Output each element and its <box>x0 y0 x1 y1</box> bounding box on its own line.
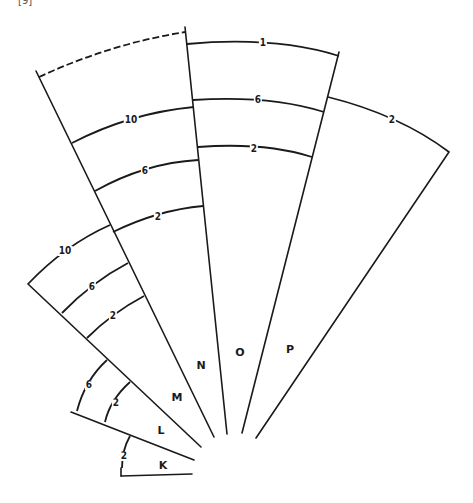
o-contour-label-1: 1 <box>259 38 267 48</box>
o-contour-label-2: 2 <box>250 144 258 154</box>
sector-label-m: M <box>172 391 183 404</box>
p-contour-label-2: 2 <box>388 115 396 125</box>
sector-label-k: K <box>159 459 168 472</box>
sector-label-l: L <box>157 424 164 437</box>
m-contour-label-10: 10 <box>58 246 73 256</box>
sector-label-n: N <box>196 359 205 372</box>
n-outer-dashed-arc <box>39 32 185 77</box>
n-contour-label-10: 10 <box>124 115 139 125</box>
p-right-boundary <box>256 152 449 438</box>
m-left-boundary <box>28 284 201 447</box>
m-contour-label-2: 2 <box>109 311 117 321</box>
n-o-divider <box>185 27 227 434</box>
l-left-boundary <box>71 412 194 460</box>
l-contour-label-6: 6 <box>85 380 93 390</box>
k-contour-label: 2 <box>120 451 128 461</box>
sector-label-p: P <box>286 343 294 356</box>
sector-label-o: O <box>235 346 244 359</box>
o-contour-label-6: 6 <box>254 95 262 105</box>
n-contour-label-6: 6 <box>141 166 149 176</box>
o-p-divider <box>242 52 339 433</box>
l-contour-label-2: 2 <box>112 398 120 408</box>
n-contour-label-2: 2 <box>154 212 162 222</box>
n-contour-10 <box>72 107 194 143</box>
k-bottom-boundary <box>121 474 192 476</box>
m-contour-label-6: 6 <box>88 282 96 292</box>
